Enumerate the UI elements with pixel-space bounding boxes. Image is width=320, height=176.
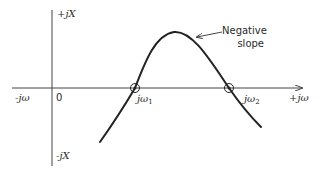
annotation-line-1: Negative [222, 24, 264, 37]
annotation-arrow [197, 32, 222, 37]
zero-crossing-dot-1 [134, 87, 137, 90]
omega-2-subscript: 2 [255, 98, 259, 106]
origin-label: 0 [56, 93, 62, 103]
zero-crossing-dot-2 [228, 87, 231, 90]
omega-1-prefix: jω [137, 93, 148, 104]
negative-frequency-label: -jω [15, 93, 30, 103]
positive-reactance-label: +jX [57, 9, 76, 19]
negative-reactance-label: -jX [56, 151, 70, 161]
annotation-line-2: slope [222, 37, 264, 50]
positive-frequency-label: +jω [289, 93, 309, 103]
negative-slope-annotation: Negative slope [222, 24, 264, 50]
reactance-diagram [0, 0, 320, 176]
omega-2-prefix: jω [244, 93, 255, 104]
omega-2-label: jω2 [244, 94, 260, 106]
omega-1-label: jω1 [137, 94, 153, 106]
omega-1-subscript: 1 [148, 98, 152, 106]
